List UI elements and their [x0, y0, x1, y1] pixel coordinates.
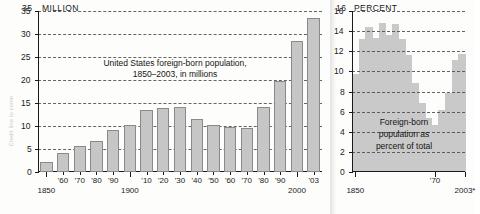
y-tick-label: 5 [27, 144, 32, 154]
bar [107, 130, 119, 172]
y-tick-label: 16 [334, 6, 344, 16]
y-tick-label: 35 [21, 6, 31, 16]
y-tick-label: 10 [21, 121, 31, 131]
bar [124, 125, 136, 172]
right-caption-line2: population as [352, 129, 456, 141]
y-tick [35, 172, 39, 173]
y-tick-label: 15 [21, 98, 31, 108]
bar [140, 110, 152, 172]
x-tick [197, 172, 198, 175]
y-tick-label: 8 [340, 87, 345, 97]
x-tick [264, 172, 265, 175]
x-tick [465, 172, 466, 177]
x-tick-label: 1900 [110, 186, 150, 195]
gridline [352, 92, 465, 93]
bar [191, 119, 203, 172]
y-tick [349, 31, 353, 32]
bar [40, 162, 52, 172]
x-tick [80, 172, 81, 175]
bar [74, 146, 86, 172]
x-tick-label: 2003* [445, 186, 480, 195]
y-tick-label: 20 [21, 75, 31, 85]
x-tick [314, 172, 315, 175]
gridline [352, 71, 465, 72]
x-tick [63, 172, 64, 175]
x-tick-label: 2000 [277, 186, 317, 195]
y-tick [35, 34, 39, 35]
x-tick-label: 1850 [335, 186, 375, 195]
y-tick-label: 10 [334, 66, 344, 76]
y-tick-label: 2 [340, 147, 345, 157]
y-tick [35, 126, 39, 127]
y-tick [35, 103, 39, 104]
x-tick [163, 172, 164, 175]
bar [57, 153, 69, 172]
bar [257, 107, 269, 172]
right-x-axis [352, 171, 465, 172]
y-tick [349, 51, 353, 52]
y-tick-label: 12 [334, 46, 344, 56]
right-caption-line1: Foreign-born [352, 117, 456, 129]
y-tick [349, 71, 353, 72]
gridline [352, 51, 465, 52]
y-tick [35, 57, 39, 58]
x-tick [213, 172, 214, 175]
x-tick [147, 172, 148, 175]
gridline [352, 31, 465, 32]
x-tick [113, 172, 114, 175]
y-tick-label: 4 [340, 127, 345, 137]
bar [224, 127, 236, 172]
gridline [38, 57, 322, 58]
y-tick [35, 11, 39, 12]
gridline [352, 11, 465, 12]
x-tick [230, 172, 231, 175]
left-plot-area [38, 11, 322, 172]
bar [174, 107, 186, 172]
y-tick-label: 14 [334, 26, 344, 36]
y-tick-label: 6 [340, 107, 345, 117]
x-tick-label: '70 [415, 176, 455, 185]
y-tick [35, 80, 39, 81]
y-tick [35, 149, 39, 150]
y-tick [349, 112, 353, 113]
bar [291, 41, 303, 172]
y-tick-label: 30 [21, 29, 31, 39]
bar [307, 18, 319, 172]
x-tick-label: 1850 [26, 186, 66, 195]
x-tick [355, 172, 356, 177]
x-tick [180, 172, 181, 175]
x-tick [280, 172, 281, 175]
y-tick [349, 172, 353, 173]
y-tick-label: 0 [340, 167, 345, 177]
y-tick [349, 92, 353, 93]
gridline [352, 112, 465, 113]
x-tick-label: '03 [294, 176, 334, 185]
bar [274, 81, 286, 172]
bar [241, 128, 253, 172]
right-caption-line3: percent of total [352, 141, 456, 153]
bar [207, 125, 219, 172]
gridline [38, 34, 322, 35]
bar [90, 141, 102, 172]
x-tick [96, 172, 97, 175]
gridline [38, 11, 322, 12]
bar [157, 108, 169, 172]
x-tick [247, 172, 248, 175]
y-tick-label: 25 [21, 52, 31, 62]
y-tick [349, 11, 353, 12]
left-y-axis [38, 11, 39, 172]
y-tick-label: 0 [27, 167, 32, 177]
left-chart-panel: 35 MILLION United States foreign-born po… [0, 0, 330, 214]
